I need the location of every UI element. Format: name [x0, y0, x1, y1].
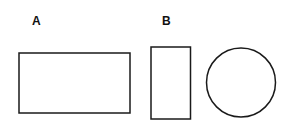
rectangle-a	[19, 53, 130, 113]
circle-shape	[207, 48, 276, 117]
diagram-canvas	[0, 0, 285, 125]
rectangle-b	[151, 47, 191, 119]
